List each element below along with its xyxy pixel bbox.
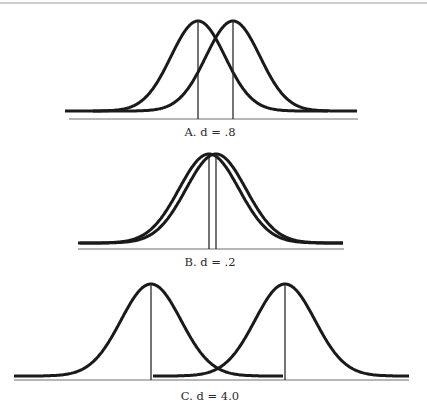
effect-size-figure [0, 0, 427, 417]
distribution-curve-1 [65, 21, 328, 111]
panel-label-a: A. d = .8 [185, 125, 236, 139]
panel-c [14, 284, 409, 380]
distribution-curve-2 [93, 21, 357, 111]
panel-label-b: B. d = .2 [184, 255, 235, 269]
distribution-curve-2 [80, 154, 343, 243]
panel-label-c: C. d = 4.0 [181, 389, 239, 403]
panel-b [78, 154, 344, 249]
distribution-curve-1 [78, 154, 343, 243]
distribution-curve-1 [14, 284, 283, 376]
distribution-curve-2 [153, 284, 409, 376]
panel-a [65, 21, 358, 119]
